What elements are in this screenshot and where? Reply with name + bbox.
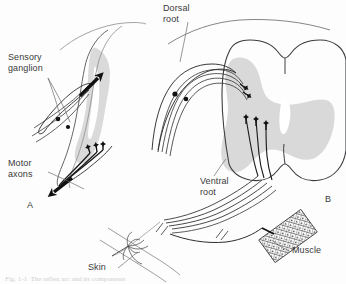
figure-caption: Fig. 1-1 The reflex arc and its componen… (5, 275, 343, 283)
label-skin: Skin (88, 262, 106, 273)
label-motor-axons: Motor axons (8, 158, 33, 179)
synapse-terminal-icon (96, 145, 97, 152)
ganglion-cell-body-icon (172, 91, 177, 96)
ganglion-cell-body-icon (184, 97, 189, 102)
ganglion-cell-body-icon (66, 125, 70, 129)
label-sensory-ganglion: Sensory ganglion (8, 52, 43, 73)
ganglion-cell-body-icon (56, 117, 61, 122)
reflex-arc-figure (0, 0, 346, 284)
panel-label-b: B (325, 194, 331, 204)
label-dorsal-root: Dorsal root (163, 3, 190, 24)
label-muscle: Muscle (292, 245, 321, 256)
panel-label-a: A (27, 200, 33, 210)
label-ventral-root: Ventral root (200, 176, 229, 197)
